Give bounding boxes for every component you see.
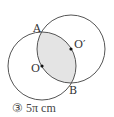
- label-b: B: [69, 84, 77, 97]
- choice-text: 5π cm: [26, 101, 56, 115]
- label-o-prime: O′: [74, 38, 86, 51]
- choice-number: ③: [12, 101, 23, 115]
- label-a: A: [32, 22, 42, 35]
- label-o: O: [31, 62, 40, 75]
- center-dot-o-prime: [69, 47, 72, 50]
- center-dot-o: [40, 64, 43, 67]
- answer-choice: ③ 5π cm: [12, 100, 56, 116]
